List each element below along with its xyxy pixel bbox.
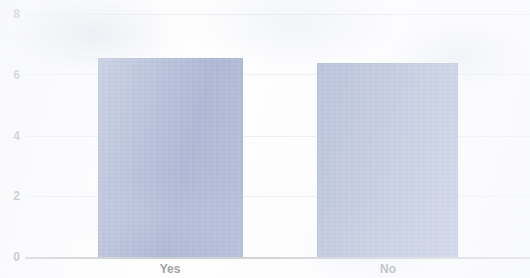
x-tick-label-yes: Yes <box>130 263 210 275</box>
y-tick-label-0: 0 <box>0 251 20 263</box>
y-tick-label-2: 2 <box>0 190 20 202</box>
bar-chart: 8 6 4 2 0 Yes No <box>0 0 530 278</box>
gridline-8 <box>25 14 530 15</box>
y-tick-label-8: 8 <box>0 8 20 20</box>
bar-yes <box>98 58 243 257</box>
y-tick-label-6: 6 <box>0 69 20 81</box>
x-axis-baseline <box>25 257 530 259</box>
y-tick-label-4: 4 <box>0 130 20 142</box>
bar-no <box>317 63 458 257</box>
x-tick-label-no: No <box>348 263 428 275</box>
plot-area <box>25 0 530 278</box>
